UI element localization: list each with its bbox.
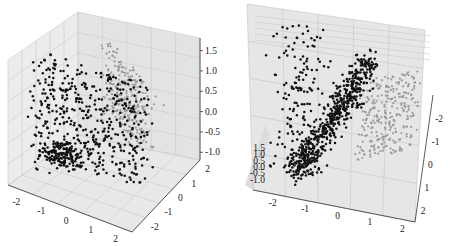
data-point-black [305,162,308,165]
data-point-black [296,131,299,134]
data-point-gray [110,98,112,100]
data-point-gray [394,96,396,98]
data-point-black [55,110,58,113]
data-point-black [339,85,342,88]
data-point-black [317,150,320,153]
data-point-gray [377,153,379,155]
data-point-black [39,142,42,145]
data-point-black [57,154,60,157]
data-point-black [134,146,137,149]
data-point-black [329,139,332,142]
data-point-gray [385,122,387,124]
data-point-black [115,102,118,105]
data-point-gray [373,147,375,149]
data-point-black [303,90,306,93]
data-point-black [48,172,51,175]
data-point-gray [115,110,117,112]
data-point-black [117,134,120,137]
data-point-black [71,145,74,148]
data-point-black [110,78,113,81]
data-point-black [102,130,105,133]
data-point-black [140,136,143,139]
data-point-black [269,165,272,168]
data-point-black [122,88,125,91]
data-point-black [99,89,102,92]
data-point-gray [388,123,390,125]
data-point-gray [378,88,380,90]
data-point-black [75,98,78,101]
data-point-gray [362,127,364,129]
data-point-gray [127,131,129,133]
data-point-gray [405,92,407,94]
data-point-black [49,156,52,159]
data-point-black [141,148,144,151]
data-point-black [265,54,268,57]
data-point-black [360,64,363,67]
data-point-black [351,65,354,68]
data-point-black [94,162,97,165]
data-point-black [324,149,327,152]
data-point-black [121,104,124,107]
data-point-black [65,165,68,168]
data-point-black [63,135,66,138]
data-point-black [65,89,68,92]
data-point-black [143,111,146,114]
data-point-black [338,116,341,119]
data-point-black [73,122,76,125]
data-point-gray [123,99,125,101]
data-point-black [82,161,85,164]
data-point-black [304,160,307,163]
data-point-gray [151,107,153,109]
data-point-gray [369,141,371,143]
data-point-black [133,122,136,125]
data-point-black [276,143,279,146]
data-point-black [372,63,375,66]
data-point-gray [396,88,398,90]
data-point-black [308,136,311,139]
z-tick-label: 0.5 [205,86,217,96]
data-point-black [118,100,121,103]
data-point-gray [414,101,416,103]
data-point-black [312,157,315,160]
data-point-gray [107,68,109,70]
data-point-gray [116,91,118,93]
data-point-black [57,160,60,163]
data-point-black [76,164,79,167]
data-point-black [372,80,375,83]
data-point-black [293,152,296,155]
data-point-black [284,164,287,167]
data-point-black [39,150,42,153]
data-point-gray [123,129,125,131]
data-point-gray [378,118,380,120]
data-point-black [135,152,138,155]
data-point-black [37,158,40,161]
data-point-gray [362,150,364,152]
data-point-black [359,78,362,81]
data-point-gray [361,149,363,151]
data-point-black [335,127,338,130]
data-point-gray [101,47,103,49]
data-point-black [112,76,115,79]
data-point-black [285,49,288,52]
y-tick-label: 0 [178,193,183,203]
data-point-gray [408,83,410,85]
data-point-black [75,88,78,91]
data-point-black [327,66,330,69]
data-point-black [123,174,126,177]
data-point-black [339,90,342,93]
data-point-gray [146,95,148,97]
data-point-gray [407,71,409,73]
data-point-black [355,75,358,78]
data-point-gray [119,84,121,86]
data-point-black [127,107,130,110]
data-point-black [322,29,325,32]
data-point-black [343,80,346,83]
data-point-black [297,105,300,108]
data-point-gray [391,152,393,154]
x-tick-label: -1 [37,206,45,216]
data-point-black [71,150,74,153]
data-point-black [350,96,353,99]
data-point-black [134,166,137,169]
data-point-gray [398,149,400,151]
data-point-black [69,88,72,91]
